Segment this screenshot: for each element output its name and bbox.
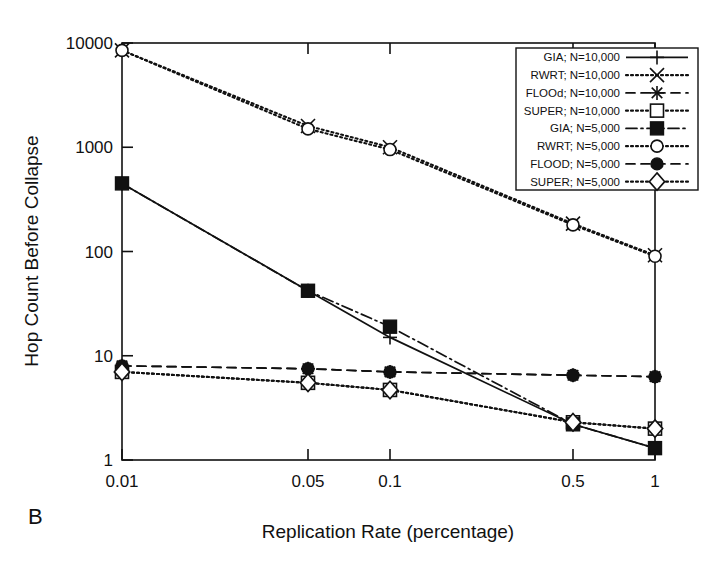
x-tick-label: 0.05 [291,472,324,491]
x-axis-tick-labels: 0.010.050.10.51 [105,472,659,491]
figure-panel-b: 110100100010000 0.010.050.10.51 GIA; N=1… [0,0,719,562]
marker-open-circle [567,219,579,231]
marker-filled-circle [384,366,396,378]
marker-filled-square [651,122,664,135]
legend-item-label: RWRT; N=10,000 [531,69,620,81]
marker-filled-square [384,320,397,333]
legend-item-label: FLOOd; N=10,000 [526,87,620,99]
marker-filled-circle [651,158,663,170]
y-tick-label: 100 [85,243,113,262]
marker-open-circle [384,144,396,156]
legend-item-label: SUPER; N=10,000 [524,105,620,117]
marker-filled-circle [649,371,661,383]
chart-legend: GIA; N=10,000RWRT; N=10,000FLOOd; N=10,0… [516,48,698,190]
x-axis-title: Replication Rate (percentage) [262,521,514,542]
marker-filled-square [649,442,662,455]
y-axis-title: Hop Count Before Collapse [21,135,42,366]
marker-open-circle [116,44,128,56]
x-tick-label: 0.5 [561,472,585,491]
legend-item-label: FLOOD; N=5,000 [530,158,620,170]
legend-item-label: GIA; N=10,000 [544,51,620,63]
marker-open-square [651,104,664,117]
panel-label: B [28,504,43,529]
y-axis-ticks [122,43,133,460]
legend-item-label: SUPER; N=5,000 [530,176,620,188]
chart-canvas: 110100100010000 0.010.050.10.51 GIA; N=1… [0,0,719,562]
legend-item-label: RWRT; N=5,000 [537,140,620,152]
marker-filled-square [116,177,129,190]
x-tick-label: 0.01 [105,472,138,491]
marker-open-circle [302,123,314,135]
marker-open-circle [651,140,663,152]
y-tick-label: 10000 [66,34,113,53]
y-axis-tick-labels: 110100100010000 [66,34,113,470]
marker-open-circle [649,250,661,262]
y-tick-label: 1 [104,451,113,470]
marker-filled-square [302,284,315,297]
x-tick-label: 1 [650,472,659,491]
y-tick-label: 10 [94,347,113,366]
chart-series [115,176,662,455]
x-tick-label: 0.1 [378,472,402,491]
chart-series [116,360,661,383]
y-tick-label: 1000 [75,138,113,157]
chart-series [116,177,662,455]
marker-filled-circle [567,369,579,381]
legend-item-label: GIA; N=5,000 [550,122,620,134]
